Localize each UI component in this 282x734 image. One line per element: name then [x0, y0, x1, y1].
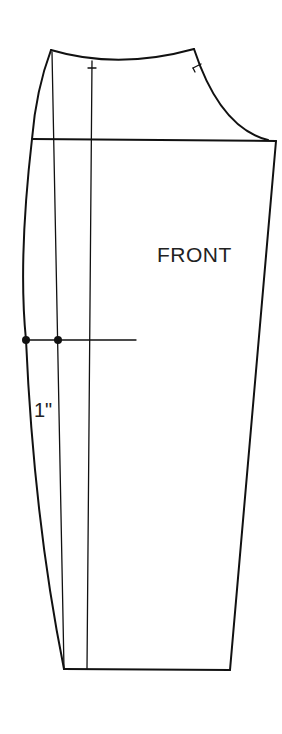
waist-curve — [51, 49, 194, 60]
crotch-curve — [194, 49, 268, 140]
knee-dot-outer — [22, 336, 30, 344]
notch-mark-cap — [193, 68, 195, 72]
knee-dot-inner — [54, 336, 62, 344]
pattern-diagram — [0, 0, 282, 734]
grainline — [87, 61, 92, 669]
crotch-line — [32, 139, 276, 141]
hem-line — [64, 669, 230, 670]
guide-line-outer — [52, 52, 64, 669]
measurement-label: 1" — [34, 399, 52, 422]
inseam — [230, 141, 276, 670]
piece-label: FRONT — [157, 243, 232, 267]
